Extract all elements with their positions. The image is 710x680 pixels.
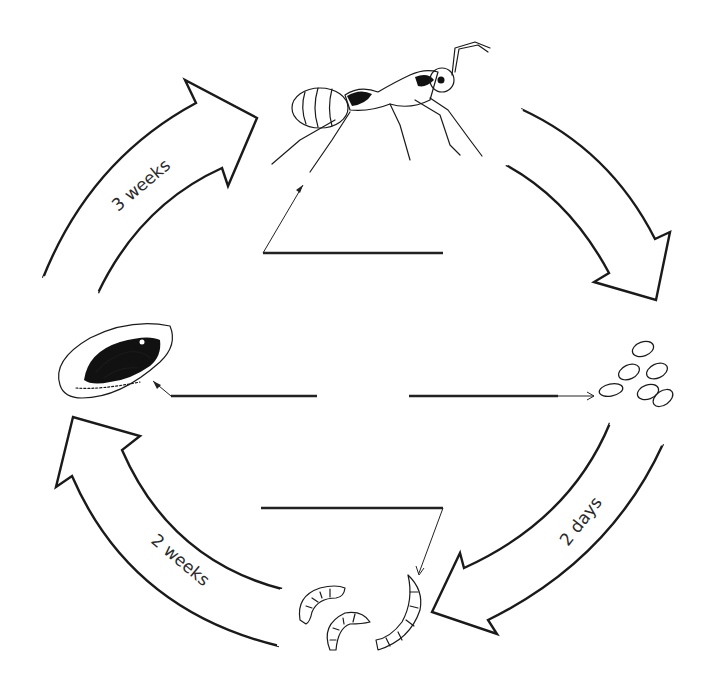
pointer-larvae xyxy=(261,508,443,575)
pointer-adult xyxy=(263,185,443,253)
pointer-pupa xyxy=(153,381,317,396)
arrow-eggs-to-larvae: 2 days xyxy=(432,423,663,634)
pointer-eggs xyxy=(409,392,594,400)
adult-ant-illustration xyxy=(272,42,490,172)
arrow-pupa-to-adult: 3 weeks xyxy=(43,80,257,293)
pupa-illustration xyxy=(59,324,173,398)
arrow-adult-to-eggs xyxy=(506,109,670,300)
larvae-illustration xyxy=(299,575,420,650)
eggs-illustration xyxy=(598,339,676,410)
arrow-larvae-to-pupa: 2 weeks xyxy=(56,417,282,646)
life-cycle-diagram: 3 weeks 2 days 2 weeks xyxy=(0,0,710,680)
